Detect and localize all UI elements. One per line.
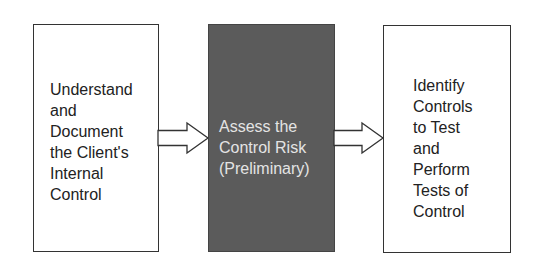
block-arrow-right-icon [158,122,209,154]
block-arrow-right-icon [334,122,384,154]
step-3-label: Identify Controls to Test and Perform Te… [413,75,473,222]
step-assess-control-risk-box: Assess the Control Risk (Preliminary) [208,24,335,252]
step-1-label: Understand and Document the Client's Int… [50,79,133,205]
step-2-label: Assess the Control Risk (Preliminary) [219,116,310,179]
step-identify-test-controls-box: Identify Controls to Test and Perform Te… [383,25,511,253]
step-understand-document-box: Understand and Document the Client's Int… [33,24,159,252]
